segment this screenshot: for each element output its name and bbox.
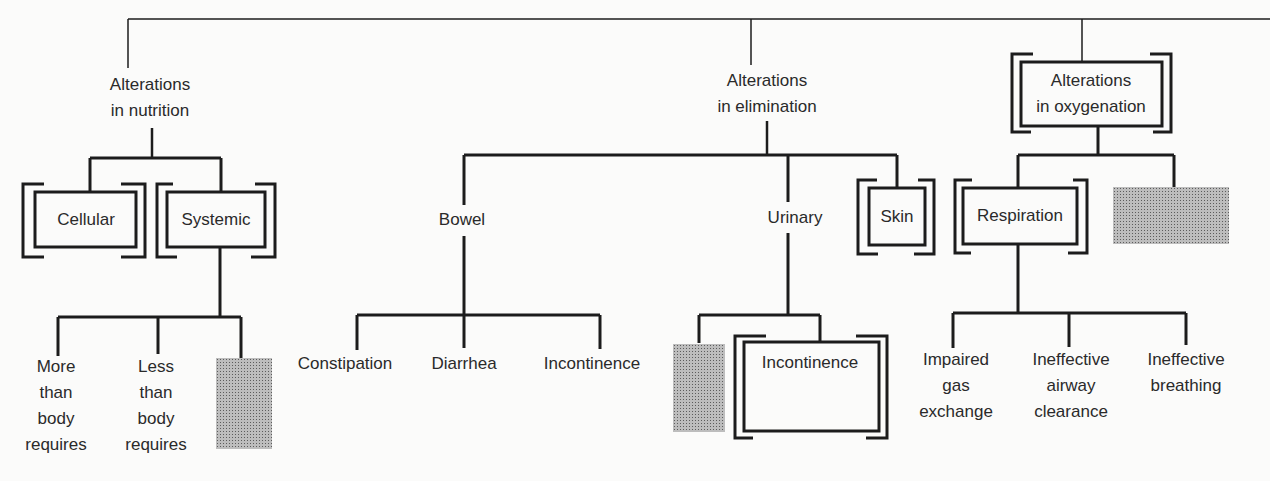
node-label-line: Alterations <box>1036 68 1146 94</box>
node-more-than-body-requires: More than body requires <box>25 354 86 458</box>
node-constipation: Constipation <box>298 351 393 377</box>
node-label-line: in oxygenation <box>1036 94 1146 120</box>
node-label-line: Ineffective <box>1147 347 1224 373</box>
node-urinary-incontinence: Incontinence <box>762 350 858 376</box>
node-alterations-elimination: Alterations in elimination <box>717 68 816 120</box>
hatched-placeholder-urinary <box>673 344 725 432</box>
node-impaired-gas-exchange: Impaired gas exchange <box>919 347 993 425</box>
node-cellular: Cellular <box>57 207 115 233</box>
node-label-line: requires <box>25 432 86 458</box>
node-bowel: Bowel <box>439 207 485 233</box>
node-label-line: breathing <box>1147 373 1224 399</box>
node-label-line: than <box>25 380 86 406</box>
node-label-line: airway <box>1032 373 1109 399</box>
node-urinary: Urinary <box>768 205 823 231</box>
node-alterations-oxygenation: Alterations in oxygenation <box>1036 68 1146 120</box>
node-ineffective-breathing: Ineffective breathing <box>1147 347 1224 399</box>
node-label-line: Impaired <box>919 347 993 373</box>
node-label-line: in nutrition <box>110 98 190 124</box>
node-less-than-body-requires: Less than body requires <box>125 354 186 458</box>
node-systemic: Systemic <box>182 207 251 233</box>
node-label-line: More <box>25 354 86 380</box>
node-diarrhea: Diarrhea <box>431 351 496 377</box>
node-label-line: exchange <box>919 399 993 425</box>
node-alterations-nutrition: Alterations in nutrition <box>110 72 190 124</box>
node-label-line: clearance <box>1032 399 1109 425</box>
node-label-line: gas <box>919 373 993 399</box>
node-bowel-incontinence: Incontinence <box>544 351 640 377</box>
node-respiration: Respiration <box>977 203 1063 229</box>
node-label-line: body <box>25 406 86 432</box>
node-label-line: Ineffective <box>1032 347 1109 373</box>
node-label-line: Less <box>125 354 186 380</box>
node-label-line: Alterations <box>717 68 816 94</box>
node-label-line: than <box>125 380 186 406</box>
hatched-placeholder-nutrition <box>216 358 272 449</box>
node-ineffective-airway-clearance: Ineffective airway clearance <box>1032 347 1109 425</box>
node-label-line: Alterations <box>110 72 190 98</box>
node-label-line: requires <box>125 432 186 458</box>
hatched-placeholder-oxygenation <box>1113 187 1229 244</box>
node-label-line: body <box>125 406 186 432</box>
node-skin: Skin <box>880 204 913 230</box>
node-label-line: in elimination <box>717 94 816 120</box>
nursing-diagnosis-tree: Alterations in nutrition Cellular System… <box>0 0 1270 481</box>
